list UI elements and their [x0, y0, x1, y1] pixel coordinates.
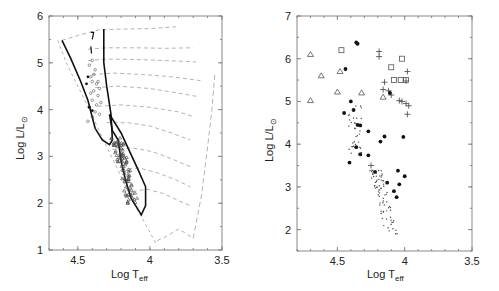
dot-marker: [355, 105, 356, 106]
plus-marker: [380, 86, 386, 92]
dot-marker: [389, 206, 390, 207]
square-marker: [400, 56, 405, 61]
small-triangle-marker: [123, 163, 126, 166]
dot-marker: [376, 181, 377, 182]
dot-marker: [392, 222, 393, 223]
right-axis-ticks: 4.543.5234567: [285, 10, 480, 267]
open-circle-marker: [87, 120, 90, 123]
dot-marker: [352, 110, 353, 111]
right-hr-diagram: 4.543.5234567 Log Teff Log L/L⊙: [263, 10, 480, 283]
hr-diagram-figure: 4.543.5123456 Log Teff Log L/L⊙ 4.543.52…: [0, 0, 499, 291]
filled-circle-marker: [358, 123, 362, 127]
triangle-marker: [307, 51, 313, 56]
filled-circle-marker: [397, 182, 401, 186]
small-triangle-marker: [136, 197, 139, 200]
plus-marker: [382, 79, 388, 85]
dot-marker: [383, 186, 384, 187]
dot-marker: [395, 233, 396, 234]
square-marker: [391, 78, 396, 83]
dot-marker: [348, 148, 349, 149]
y-tick-label: 2: [37, 197, 43, 209]
right-plot-content: [307, 41, 411, 235]
dot-marker: [376, 187, 377, 188]
dot-marker: [386, 192, 387, 193]
dot-marker: [379, 192, 380, 193]
filled-circle-marker: [396, 169, 400, 173]
zams-line: [58, 40, 156, 243]
dot-marker: [383, 183, 384, 184]
dot-marker: [351, 152, 352, 153]
dot-marker: [381, 173, 382, 174]
filled-point: [88, 106, 91, 109]
dot-marker: [355, 122, 356, 123]
y-tick-label: 6: [37, 10, 43, 22]
plus-marker: [376, 48, 382, 54]
dot-marker: [383, 225, 384, 226]
filled-circle-marker: [354, 145, 358, 149]
x-tick-label: 4.5: [330, 255, 345, 267]
dot-marker: [359, 130, 360, 131]
dot-marker: [379, 204, 380, 205]
y-tick-label: 6: [285, 53, 291, 65]
dot-marker: [353, 117, 354, 118]
dot-marker: [378, 194, 379, 195]
filled-circle-marker: [356, 42, 360, 46]
dot-marker: [380, 170, 381, 171]
y-tick-label: 3: [285, 181, 291, 193]
plus-marker: [368, 163, 374, 169]
dot-marker: [381, 175, 382, 176]
x-tick-label: 4: [147, 254, 153, 266]
triangle-marker: [359, 90, 365, 95]
dot-marker: [388, 230, 389, 231]
left-plot-frame: [49, 16, 222, 250]
open-circle-marker: [91, 99, 94, 102]
filled-circle-marker: [349, 100, 353, 104]
left-y-axis-label: Log L/L⊙: [14, 116, 29, 160]
dot-marker: [387, 227, 388, 228]
dot-marker: [371, 171, 372, 172]
dot-marker: [378, 170, 379, 171]
left-x-axis-label: Log Teff: [111, 268, 148, 283]
triangle-marker: [334, 89, 340, 94]
dot-marker: [371, 177, 372, 178]
open-circle-marker: [100, 101, 103, 104]
triangle-marker: [337, 69, 343, 74]
dot-marker: [382, 218, 383, 219]
dot-marker: [359, 133, 360, 134]
dot-marker: [392, 228, 393, 229]
open-circle-marker: [90, 92, 93, 95]
small-triangle-marker: [118, 136, 121, 139]
dot-marker: [355, 144, 356, 145]
evolutionary-track: [133, 189, 191, 205]
filled-circle-marker: [366, 129, 370, 133]
dot-marker: [378, 189, 379, 190]
triangle-marker: [318, 73, 324, 78]
y-tick-label: 5: [285, 95, 291, 107]
x-tick-label: 3.5: [464, 255, 479, 267]
dot-marker: [379, 185, 380, 186]
dot-marker: [380, 211, 381, 212]
filled-circle-marker: [366, 153, 370, 157]
open-circle-marker: [91, 80, 94, 83]
dot-marker: [378, 179, 379, 180]
dot-marker: [390, 219, 391, 220]
square-marker: [389, 65, 394, 70]
dot-marker: [375, 182, 376, 183]
plus-marker: [396, 98, 402, 104]
right-plot-frame: [297, 16, 472, 251]
dot-marker: [359, 154, 360, 155]
left-hr-diagram: 4.543.5123456 Log Teff Log L/L⊙: [14, 10, 230, 283]
dot-marker: [354, 141, 355, 142]
dot-marker: [379, 196, 380, 197]
dot-marker: [374, 185, 375, 186]
open-circle-marker: [98, 87, 101, 90]
triangle-marker: [307, 98, 313, 103]
dot-marker: [379, 202, 380, 203]
dot-marker: [356, 117, 357, 118]
dot-marker: [372, 174, 373, 175]
dot-marker: [386, 194, 387, 195]
filled-circle-marker: [383, 135, 387, 139]
dot-marker: [390, 224, 391, 225]
small-triangle-marker: [134, 201, 137, 204]
dot-marker: [395, 230, 396, 231]
